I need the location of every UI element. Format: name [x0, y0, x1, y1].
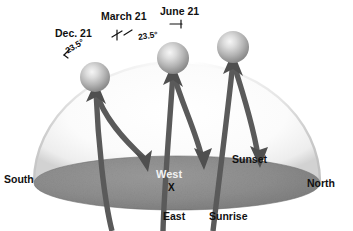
label-north: North	[307, 178, 335, 189]
label-east: East	[163, 211, 185, 222]
label-march-21: March 21	[101, 11, 147, 22]
observer-marker: X	[168, 183, 175, 193]
label-west: West	[156, 169, 182, 180]
sun-jun	[217, 31, 249, 63]
label-south: South	[4, 174, 34, 185]
label-sunset: Sunset	[232, 154, 267, 165]
tick-mar-left	[124, 30, 132, 35]
diagram-canvas	[0, 0, 353, 231]
tick-jun-right	[170, 20, 182, 28]
tick-dec-right	[112, 30, 122, 40]
label-sunrise: Sunrise	[209, 211, 248, 222]
solar-path-diagram: Dec. 21 March 21 June 21 23.5° 23.5° Sou…	[0, 0, 353, 231]
sun-mar	[157, 42, 189, 74]
label-june-21: June 21	[160, 6, 199, 17]
horizon-plane	[34, 156, 320, 210]
sun-dec	[80, 62, 110, 92]
label-dec-21: Dec. 21	[55, 28, 92, 39]
